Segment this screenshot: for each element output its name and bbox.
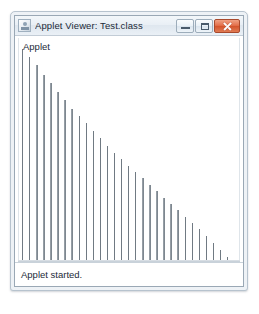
chart-bar xyxy=(100,138,101,261)
window-controls xyxy=(176,19,240,33)
status-text: Applet started. xyxy=(21,269,82,280)
chart-bar xyxy=(114,153,115,261)
chart-bar xyxy=(121,159,122,261)
chart-bar xyxy=(170,204,171,261)
chart-bar xyxy=(128,166,129,261)
window-title: Applet Viewer: Test.class xyxy=(35,20,176,31)
window-inner: Applet Viewer: Test.class xyxy=(14,15,244,287)
chart-bar xyxy=(57,92,58,261)
chart-bar xyxy=(142,178,143,261)
screenshot-root: Applet Viewer: Test.class xyxy=(0,0,259,314)
minimize-button[interactable] xyxy=(176,19,194,33)
chart-bar xyxy=(86,123,87,261)
close-icon xyxy=(223,21,232,30)
status-bar: Applet started. xyxy=(15,262,243,286)
chart-bar xyxy=(50,83,51,261)
chart-bar xyxy=(213,243,214,261)
close-button[interactable] xyxy=(214,19,240,33)
applet-viewer-icon xyxy=(18,19,31,32)
chart-bar xyxy=(93,131,94,261)
maximize-icon xyxy=(201,23,209,30)
chart-bar xyxy=(199,229,200,261)
chart-bar xyxy=(149,185,150,261)
chart-baseline xyxy=(18,260,240,261)
applet-viewer-window: Applet Viewer: Test.class xyxy=(10,11,248,291)
applet-canvas[interactable]: Applet xyxy=(18,38,240,262)
chart-bar xyxy=(135,172,136,261)
chart-bar xyxy=(71,109,72,261)
minimize-icon xyxy=(181,27,190,29)
chart-bar xyxy=(29,57,30,261)
chart-bar xyxy=(206,236,207,261)
chart-bar xyxy=(163,198,164,262)
chart-bar xyxy=(36,65,37,261)
chart-bar xyxy=(107,146,108,261)
chart-bar xyxy=(185,217,186,261)
chart-bar xyxy=(22,49,23,261)
chart-bar xyxy=(177,210,178,261)
chart-bar xyxy=(192,223,193,261)
chart-bar xyxy=(79,116,80,261)
applet-label: Applet xyxy=(23,41,50,52)
chart-bar xyxy=(64,100,65,261)
chart-bar xyxy=(43,75,44,261)
bar-chart xyxy=(18,38,240,261)
chart-bar xyxy=(156,191,157,261)
window-client-area: Applet Applet started. xyxy=(15,36,243,286)
title-bar[interactable]: Applet Viewer: Test.class xyxy=(15,16,243,36)
maximize-button[interactable] xyxy=(195,19,213,33)
